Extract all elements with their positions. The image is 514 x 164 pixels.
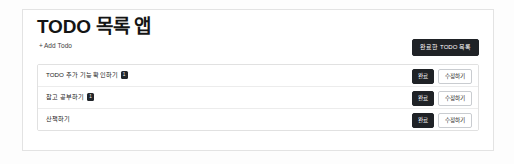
todo-item-label: 참고 공부하기 [46,93,84,100]
app-content: TODO 목록 앱 +Add Todo 완료한 TODO 목록 TODO 추가 … [37,16,479,131]
row-actions: 완료 수정하기 [412,91,472,106]
page-root: TODO 목록 앱 +Add Todo 완료한 TODO 목록 TODO 추가 … [0,0,514,164]
todo-count-badge: 1 [121,71,128,79]
row-actions: 완료 수정하기 [412,113,472,128]
add-todo-link[interactable]: +Add Todo [39,42,72,49]
table-row[interactable]: 참고 공부하기1 완료 수정하기 [38,87,478,109]
table-row[interactable]: TODO 추가 기능 확인하기1 완료 수정하기 [38,65,478,87]
edit-button[interactable]: 수정하기 [438,69,472,84]
add-todo-label: Add Todo [44,42,72,49]
edit-button[interactable]: 수정하기 [438,91,472,106]
toolbar: +Add Todo 완료한 TODO 목록 [37,39,479,61]
todo-item-text: TODO 추가 기능 확인하기1 [46,71,128,79]
complete-button[interactable]: 완료 [412,69,434,84]
edit-button[interactable]: 수정하기 [438,113,472,128]
todo-count-badge: 1 [87,93,94,101]
row-actions: 완료 수정하기 [412,69,472,84]
complete-button[interactable]: 완료 [412,91,434,106]
complete-button[interactable]: 완료 [412,113,434,128]
app-card: TODO 목록 앱 +Add Todo 완료한 TODO 목록 TODO 추가 … [22,9,494,151]
completed-todo-list-button[interactable]: 완료한 TODO 목록 [412,39,479,56]
page-title: TODO 목록 앱 [37,16,479,39]
todo-list: TODO 추가 기능 확인하기1 완료 수정하기 참고 공부하기1 완료 수정하… [37,64,479,131]
todo-item-text: 참고 공부하기1 [46,93,94,101]
plus-icon: + [39,42,43,49]
table-row[interactable]: 산책하기 완료 수정하기 [38,109,478,130]
todo-item-label: TODO 추가 기능 확인하기 [46,71,118,78]
todo-item-text: 산책하기 [46,115,70,123]
todo-item-label: 산책하기 [46,115,70,122]
